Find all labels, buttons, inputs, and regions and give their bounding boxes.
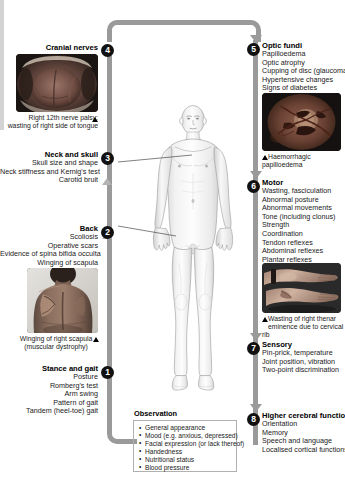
page-edge-strip bbox=[0, 0, 4, 130]
scapula-caption-line-1: Winging of right scapula bbox=[20, 335, 93, 342]
tongue-wasting-photo bbox=[16, 54, 98, 112]
leader-line-back bbox=[118, 222, 180, 240]
winging-scapula-caption: Winging of right scapula (muscular dystr… bbox=[14, 335, 98, 351]
observation-item-2: Facial expression (or lack thereof) bbox=[139, 440, 232, 448]
neck-and-skull-item-2: Carotid bruit bbox=[0, 176, 98, 185]
observation-item-1: Mood (e.g. anxious, depressed) bbox=[139, 432, 232, 440]
badge-stance-and-gait[interactable]: 1 bbox=[101, 366, 114, 379]
thenar-caption-line-1: Wasting of right thenar bbox=[268, 315, 336, 322]
tongue-wasting-caption: Right 12th nerve palsy: wasting of right… bbox=[0, 114, 98, 130]
triangle-marker-icon-tongue bbox=[92, 117, 98, 122]
observation-frame: General appearance Mood (e.g. anxious, d… bbox=[133, 420, 237, 472]
human-body-anterior-figure bbox=[148, 103, 238, 393]
sensory-item-2: Two-point discrimination bbox=[262, 366, 345, 375]
badge-cranial-nerves[interactable]: 4 bbox=[101, 44, 114, 57]
leader-line-neck-and-skull bbox=[118, 154, 196, 170]
thenar-caption-line-2: eminence due to cervical rib bbox=[262, 323, 343, 338]
section-neck-and-skull: Neck and skull Skull size and shape Neck… bbox=[0, 150, 98, 185]
flow-arrow-to-sensory bbox=[250, 333, 262, 341]
triangle-marker-icon-scapula bbox=[93, 337, 99, 342]
flow-corner-top-left bbox=[107, 20, 129, 42]
section-higher-cerebral-function: Higher cerebral function Orientation Mem… bbox=[262, 411, 345, 454]
winging-scapula-photo bbox=[27, 268, 98, 333]
badge-higher-cerebral-function[interactable]: 8 bbox=[247, 413, 260, 426]
flow-corner-bottom-left bbox=[107, 424, 127, 444]
badge-sensory[interactable]: 7 bbox=[247, 342, 260, 355]
section-optic-fundi: Optic fundi Papilloedema Optic atrophy C… bbox=[262, 41, 345, 93]
cranial-nerves-heading: Cranial nerves bbox=[0, 43, 98, 52]
scapula-caption-line-2: (muscular dystrophy) bbox=[24, 343, 87, 350]
neurological-examination-diagram: 1 2 3 4 5 6 7 8 Cranial nerves bbox=[0, 0, 345, 491]
higher-cerebral-function-item-3: Localised cortical functions bbox=[262, 446, 345, 455]
stance-and-gait-item-4: Tandem (heel-toe) gait bbox=[0, 407, 98, 416]
flow-arrow-to-higher-cerebral bbox=[250, 404, 262, 412]
observation-title: Observation bbox=[133, 409, 237, 418]
section-back: Back Scoliosis Operative scars Evidence … bbox=[0, 224, 98, 267]
tongue-caption-line-1: Right 12th nerve palsy: bbox=[28, 114, 98, 121]
papilloedema-caption: Haemorrhagic papilloedema bbox=[262, 153, 345, 169]
observation-box: Observation General appearance Mood (e.g… bbox=[133, 409, 237, 471]
tongue-caption-line-2: wasting of right side of tongue bbox=[8, 122, 98, 129]
observation-item-0: General appearance bbox=[139, 424, 232, 432]
flow-segment-top bbox=[127, 20, 241, 25]
thenar-wasting-photo bbox=[262, 263, 341, 313]
section-sensory: Sensory Pin-prick, temperature Joint pos… bbox=[262, 340, 345, 375]
section-cranial-nerves: Cranial nerves bbox=[0, 43, 98, 52]
thenar-wasting-caption: Wasting of right thenar eminence due to … bbox=[262, 315, 345, 339]
back-item-3: Winging of scapula bbox=[0, 259, 98, 268]
badge-motor[interactable]: 6 bbox=[247, 180, 260, 193]
badge-neck-and-skull[interactable]: 3 bbox=[101, 152, 114, 165]
section-stance-and-gait: Stance and gait Posture Romberg's test A… bbox=[0, 364, 98, 416]
observation-list: General appearance Mood (e.g. anxious, d… bbox=[139, 424, 232, 471]
badge-optic-fundi[interactable]: 5 bbox=[247, 43, 260, 56]
optic-fundi-item-4: Signs of diabetes bbox=[262, 84, 345, 93]
section-motor: Motor Wasting, fasciculation Abnormal po… bbox=[262, 178, 345, 264]
observation-item-3: Handedness bbox=[139, 448, 232, 456]
papilloedema-caption-line-1: Haemorrhagic papilloedema bbox=[262, 153, 311, 168]
observation-item-5: Blood pressure bbox=[139, 464, 232, 472]
flow-arrow-to-motor bbox=[250, 171, 262, 179]
haemorrhagic-papilloedema-photo bbox=[262, 93, 341, 151]
badge-back[interactable]: 2 bbox=[101, 226, 114, 239]
flow-arrow-to-optic-fundi bbox=[250, 35, 262, 43]
flow-nudge-arrow-3 bbox=[102, 178, 112, 185]
observation-item-4: Nutritional status bbox=[139, 456, 232, 464]
motor-item-8: Plantar reflexes bbox=[262, 256, 345, 265]
flow-segment-right-vertical bbox=[253, 40, 258, 445]
